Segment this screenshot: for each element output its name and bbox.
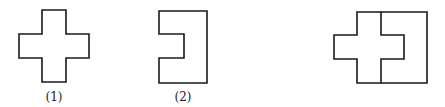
shape-1-cross: (1) bbox=[19, 10, 89, 104]
shape-1-label: (1) bbox=[46, 90, 63, 104]
combined-cross-outline bbox=[334, 12, 404, 83]
shape-2-notched-rectangle: (2) bbox=[159, 11, 207, 104]
shape-2-label: (2) bbox=[175, 90, 192, 104]
notched-rectangle-outline bbox=[159, 11, 207, 83]
cross-outline bbox=[19, 10, 89, 82]
combined-figure bbox=[334, 12, 427, 83]
diagram-canvas: (1) (2) bbox=[0, 0, 445, 107]
